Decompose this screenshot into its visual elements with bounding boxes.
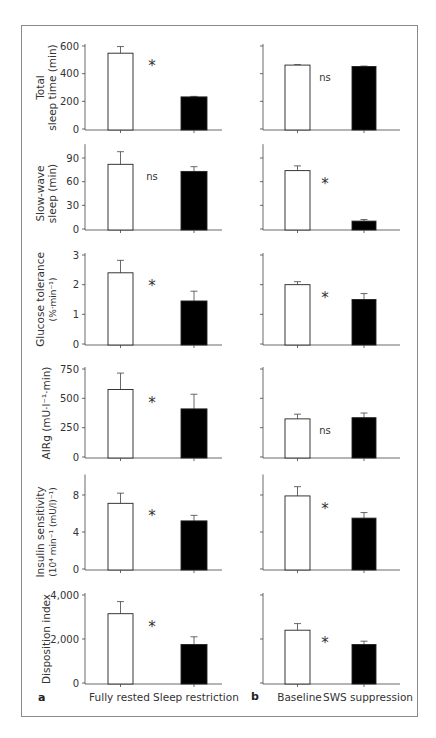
x-category-label: Fully rested bbox=[89, 691, 150, 703]
x-category-label: Baseline bbox=[277, 691, 322, 703]
subplot-a-row5: 048*Insulin sensitivity(10⁴ min⁻¹ (mU/l)… bbox=[34, 475, 222, 578]
significance-marker: * bbox=[148, 57, 156, 75]
y-tick-label: 600 bbox=[60, 41, 79, 52]
significance-marker: * bbox=[321, 289, 329, 307]
bar-control bbox=[285, 419, 310, 458]
bar-control bbox=[108, 614, 133, 684]
subplot-b-row3: * bbox=[260, 253, 400, 348]
subplot-b-row2: * bbox=[260, 144, 400, 233]
y-tick-label: 0 bbox=[73, 339, 79, 350]
y-axis-label: (%·min⁻¹) bbox=[48, 278, 58, 322]
subplot-b-row5: * bbox=[260, 475, 400, 574]
y-axis-label: AIRg (mU·l⁻¹·min) bbox=[40, 367, 52, 460]
y-tick-label: 0 bbox=[73, 564, 79, 575]
y-tick-label: 0 bbox=[73, 678, 79, 689]
y-tick-label: 90 bbox=[66, 153, 79, 164]
significance-marker: * bbox=[148, 394, 156, 412]
significance-marker: * bbox=[321, 175, 329, 193]
bar-intervention bbox=[352, 518, 376, 570]
y-tick-label: 250 bbox=[60, 422, 79, 433]
bar-intervention bbox=[181, 409, 207, 458]
bar-intervention bbox=[181, 301, 207, 345]
y-axis-label: Glucose tolerance bbox=[34, 252, 46, 347]
bar-intervention bbox=[181, 171, 207, 230]
bar-control bbox=[285, 171, 310, 230]
bar-intervention bbox=[352, 645, 376, 685]
x-category-label: Sleep restriction bbox=[153, 691, 239, 703]
y-axis-label: Slow-wave bbox=[34, 165, 46, 221]
y-tick-label: 750 bbox=[60, 364, 79, 375]
y-tick-label: 3 bbox=[73, 250, 79, 261]
y-tick-label: 4,000 bbox=[50, 590, 79, 601]
y-axis-label: sleep (min) bbox=[46, 164, 58, 223]
bar-control bbox=[108, 53, 133, 130]
subplot-a-row4: 0250500750*AIRg (mU·l⁻¹·min) bbox=[40, 364, 222, 463]
y-tick-label: 4 bbox=[73, 527, 79, 538]
y-tick-label: 0 bbox=[73, 452, 79, 463]
significance-marker: ns bbox=[146, 171, 158, 182]
y-axis-label: Total bbox=[34, 75, 46, 101]
significance-marker: * bbox=[148, 277, 156, 295]
bar-intervention bbox=[352, 66, 376, 130]
y-tick-label: 500 bbox=[60, 393, 79, 404]
bar-chart-figure: 0200400600*Totalsleep time (min)ns030609… bbox=[0, 0, 436, 738]
y-axis-label: Disposition index bbox=[40, 594, 52, 684]
y-tick-label: 30 bbox=[66, 200, 79, 211]
significance-marker: ns bbox=[319, 425, 331, 436]
bar-intervention bbox=[181, 97, 207, 130]
significance-marker: * bbox=[148, 507, 156, 525]
significance-marker: * bbox=[148, 618, 156, 636]
bar-control bbox=[285, 285, 310, 345]
subplot-a-row6: 02,0004,000*Disposition index bbox=[40, 590, 222, 689]
subplot-b-row4: ns bbox=[260, 367, 400, 461]
x-category-label: SWS suppression bbox=[323, 691, 413, 703]
significance-marker: * bbox=[321, 634, 329, 652]
y-tick-label: 0 bbox=[73, 124, 79, 135]
subplot-a-row1: 0200400600*Totalsleep time (min) bbox=[34, 41, 222, 135]
y-tick-label: 1 bbox=[73, 309, 79, 320]
bar-intervention bbox=[352, 221, 376, 230]
bar-control bbox=[108, 164, 133, 230]
bar-intervention bbox=[181, 645, 207, 685]
y-tick-label: 8 bbox=[73, 490, 79, 501]
y-axis-label: Insulin sensitivity bbox=[34, 486, 46, 577]
bar-intervention bbox=[352, 300, 376, 346]
subplot-a-row3: 0123*Glucose tolerance(%·min⁻¹) bbox=[34, 250, 222, 350]
y-tick-label: 0 bbox=[73, 224, 79, 235]
significance-marker: * bbox=[321, 500, 329, 518]
bar-control bbox=[285, 496, 310, 570]
bar-control bbox=[108, 503, 133, 570]
y-tick-label: 60 bbox=[66, 176, 79, 187]
y-axis-label: (10⁴ min⁻¹ (mU/l)⁻¹) bbox=[48, 487, 58, 576]
y-tick-label: 400 bbox=[60, 68, 79, 79]
panel-label-b: b bbox=[251, 690, 259, 703]
panel-label-a: a bbox=[38, 691, 45, 704]
y-tick-label: 2,000 bbox=[50, 634, 79, 645]
bar-control bbox=[285, 65, 310, 130]
bar-control bbox=[108, 273, 133, 345]
bar-control bbox=[285, 630, 310, 684]
subplot-a-row2: 0306090nsSlow-wavesleep (min) bbox=[34, 144, 222, 234]
bar-control bbox=[108, 390, 133, 458]
bar-intervention bbox=[181, 521, 207, 570]
bar-intervention bbox=[352, 418, 376, 458]
y-tick-label: 200 bbox=[60, 96, 79, 107]
y-tick-label: 2 bbox=[73, 279, 79, 290]
significance-marker: ns bbox=[319, 72, 331, 83]
subplot-b-row6: * bbox=[260, 593, 400, 687]
subplot-b-row1: ns bbox=[260, 44, 400, 133]
y-axis-label: sleep time (min) bbox=[46, 44, 58, 130]
